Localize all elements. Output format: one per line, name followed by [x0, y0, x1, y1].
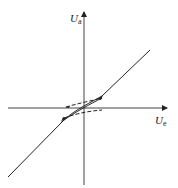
curve-lower: [8, 122, 62, 177]
hysteresis-lower-branch: [64, 98, 102, 120]
hysteresis-dash-bottom: [64, 110, 102, 118]
transfer-characteristic-diagram: [0, 0, 178, 188]
y-axis-label: Ua: [70, 12, 82, 26]
x-axis-label: Ue: [155, 114, 167, 128]
curve-upper: [102, 50, 150, 96]
